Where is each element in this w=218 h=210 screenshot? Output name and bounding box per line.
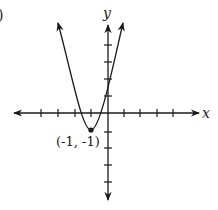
- x-axis-label: x: [202, 105, 210, 121]
- vertex-point: [88, 127, 93, 132]
- y-axis-label: y: [102, 5, 112, 21]
- figure-corner-label: ): [0, 7, 3, 23]
- parabola-graph: ) x y (-1, -1): [0, 0, 218, 210]
- vertex-label: (-1, -1): [56, 134, 100, 149]
